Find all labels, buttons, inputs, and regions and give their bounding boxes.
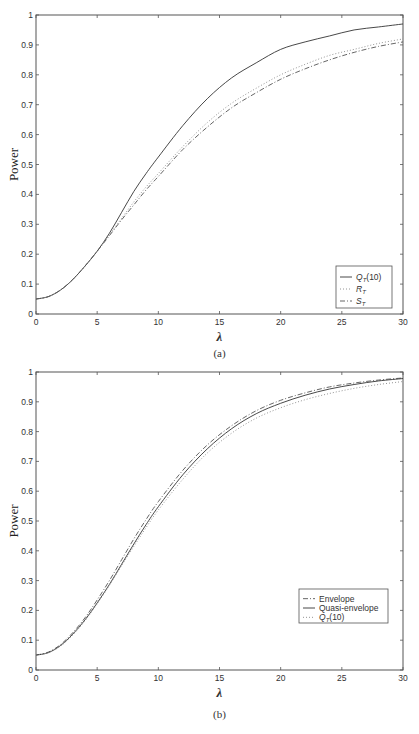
y-tick-label: 0.1 <box>21 635 33 645</box>
x-tick-label: 25 <box>337 673 347 683</box>
x-tick-label: 15 <box>215 673 225 683</box>
y-tick-label: 0.9 <box>21 397 33 407</box>
series-line-q-t-10- <box>36 24 403 299</box>
y-tick-label: 1 <box>28 10 33 20</box>
y-tick-label: 0.4 <box>21 546 33 556</box>
chart-a: 05101520253000.10.20.30.40.50.60.70.80.9… <box>6 10 408 360</box>
y-tick-label: 0 <box>28 309 33 319</box>
x-tick-label: 30 <box>398 673 408 683</box>
y-tick-label: 0.2 <box>21 605 33 615</box>
figure: 05101520253000.10.20.30.40.50.60.70.80.9… <box>0 0 419 734</box>
y-tick-label: 0.6 <box>21 486 33 496</box>
y-tick-label: 0.6 <box>21 130 33 140</box>
y-axis-label: Power <box>6 504 21 538</box>
chart-b: 05101520253000.10.20.30.40.50.60.70.80.9… <box>6 367 408 721</box>
y-tick-label: 0.9 <box>21 40 33 50</box>
legend-entry: QT(10) <box>319 612 345 623</box>
y-axis-label: Power <box>6 147 21 181</box>
x-tick-label: 25 <box>337 317 347 327</box>
x-tick-label: 5 <box>95 673 100 683</box>
x-tick-label: 0 <box>34 317 39 327</box>
y-tick-label: 0.2 <box>21 249 33 259</box>
series-line-r-t <box>36 39 403 299</box>
y-tick-label: 0.3 <box>21 576 33 586</box>
x-axis-label: λ <box>216 329 223 344</box>
series-line-s-t <box>36 42 403 299</box>
x-tick-label: 10 <box>154 673 164 683</box>
x-tick-label: 20 <box>276 317 286 327</box>
legend: QT(10)RTST <box>336 266 392 308</box>
x-axis-label: λ <box>216 685 223 700</box>
y-tick-label: 0 <box>28 665 33 675</box>
x-tick-label: 20 <box>276 673 286 683</box>
x-tick-label: 0 <box>34 673 39 683</box>
x-tick-label: 15 <box>215 317 225 327</box>
legend-entry: QT(10) <box>356 272 382 283</box>
plot-area-frame <box>36 372 403 670</box>
y-tick-label: 0.7 <box>21 456 33 466</box>
y-tick-label: 0.1 <box>21 279 33 289</box>
x-tick-label: 10 <box>154 317 164 327</box>
y-tick-label: 0.5 <box>21 516 33 526</box>
legend-entry: Quasi-envelope <box>319 603 379 613</box>
legend: EnvelopeQuasi-envelopeQT(10) <box>299 589 388 623</box>
y-tick-label: 0.4 <box>21 189 33 199</box>
y-tick-label: 0.3 <box>21 219 33 229</box>
x-tick-label: 5 <box>95 317 100 327</box>
y-tick-label: 0.8 <box>21 70 33 80</box>
y-tick-label: 1 <box>28 367 33 377</box>
figure-caption: (b) <box>213 708 226 721</box>
y-tick-label: 0.8 <box>21 427 33 437</box>
y-tick-label: 0.7 <box>21 100 33 110</box>
y-tick-label: 0.5 <box>21 160 33 170</box>
x-tick-label: 30 <box>398 317 408 327</box>
figure-caption: (a) <box>213 347 226 360</box>
